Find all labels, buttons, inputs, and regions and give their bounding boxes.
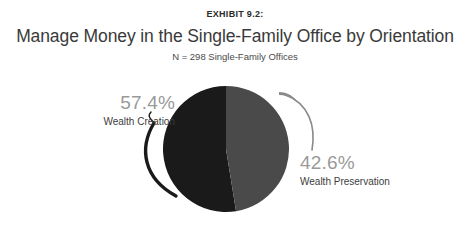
- pie-slice-wealth-preservation[interactable]: [226, 86, 289, 211]
- category-wealth-creation: Wealth Creation: [40, 115, 175, 128]
- percent-wealth-creation: 57.4%: [40, 92, 175, 114]
- slice-label-wealth-preservation: 42.6% Wealth Preservation: [300, 152, 460, 188]
- pie-chart: [163, 86, 289, 212]
- leader-arc-wealth-preservation: [286, 95, 313, 150]
- chart-subtitle: N = 298 Single-Family Offices: [0, 51, 470, 63]
- percent-wealth-preservation: 42.6%: [300, 152, 460, 174]
- chart-title: Manage Money in the Single-Family Office…: [0, 26, 470, 47]
- slice-label-wealth-creation: 57.4% Wealth Creation: [40, 92, 175, 128]
- category-wealth-preservation: Wealth Preservation: [300, 175, 460, 188]
- pie-chart-svg: [163, 86, 289, 212]
- exhibit-label: EXHIBIT 9.2:: [0, 9, 470, 20]
- chart-header: EXHIBIT 9.2: Manage Money in the Single-…: [0, 0, 470, 63]
- exhibit-figure: EXHIBIT 9.2: Manage Money in the Single-…: [0, 0, 470, 225]
